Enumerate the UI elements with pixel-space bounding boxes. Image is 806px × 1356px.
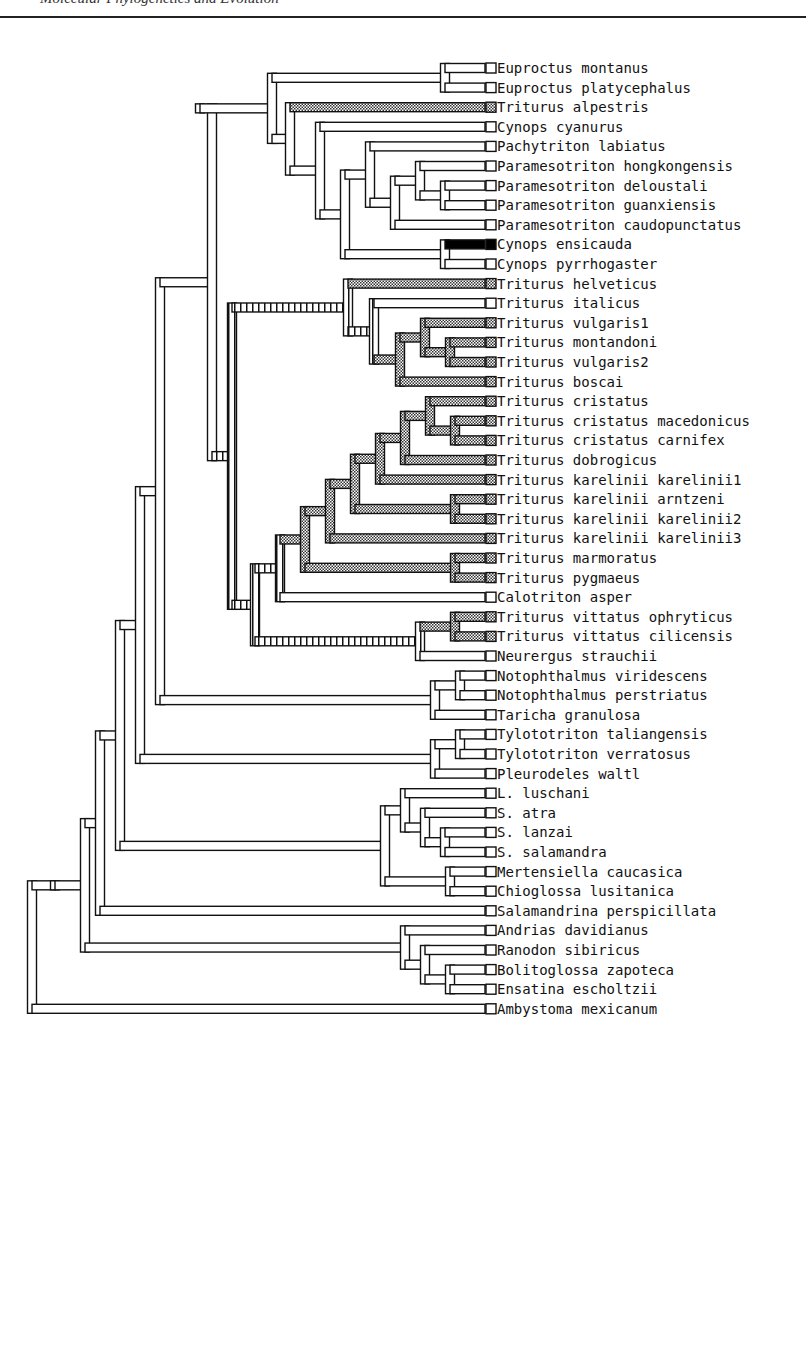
taxon-label: Andrias davidianus <box>497 922 649 938</box>
character-state-box <box>486 651 496 661</box>
phylogenetic-tree: Euproctus montanusEuproctus platycephalu… <box>0 0 806 1356</box>
branch <box>445 83 485 92</box>
branch <box>272 73 445 82</box>
character-state-box <box>486 63 496 73</box>
character-state-box <box>486 925 496 935</box>
tree-leaves: Euproctus montanusEuproctus platycephalu… <box>486 60 750 1017</box>
character-state-box <box>486 514 496 524</box>
node-connector <box>276 535 285 602</box>
character-state-box <box>486 827 496 837</box>
taxon-label: Triturus helveticus <box>497 276 657 292</box>
branch <box>405 789 485 798</box>
node-connector <box>370 299 379 364</box>
character-state-box <box>486 1004 496 1014</box>
branch <box>232 303 348 312</box>
taxon-label: Paramesotriton caudopunctatus <box>497 217 741 233</box>
taxon-label: Triturus italicus <box>497 295 640 311</box>
character-state-box <box>486 279 496 289</box>
branch <box>455 554 485 563</box>
branch <box>160 278 212 287</box>
taxon-label: Notophthalmus perstriatus <box>497 687 708 703</box>
taxon-label: Triturus karelinii arntzeni <box>497 491 725 507</box>
character-state-box <box>486 318 496 328</box>
branch <box>320 122 485 131</box>
taxon-label: Triturus montandoni <box>497 334 657 350</box>
character-state-box <box>486 102 496 112</box>
taxon-label: Euproctus montanus <box>497 60 649 76</box>
taxon-label: Triturus vulgaris2 <box>497 354 649 370</box>
character-state-box <box>486 416 496 426</box>
branch <box>290 103 485 112</box>
character-state-box <box>486 181 496 191</box>
character-state-box <box>486 298 496 308</box>
node-connector <box>96 731 105 915</box>
character-state-box <box>486 259 496 269</box>
taxon-label: Triturus vittatus cilicensis <box>497 628 733 644</box>
taxon-label: Tylototriton taliangensis <box>497 726 708 742</box>
character-state-box <box>486 690 496 700</box>
branch <box>420 622 455 631</box>
node-connector <box>228 303 237 609</box>
branch <box>400 377 485 386</box>
taxon-label: Ensatina escholtzii <box>497 981 657 997</box>
branch <box>140 754 435 763</box>
branch <box>430 397 485 406</box>
character-state-box <box>486 377 496 387</box>
node-connector <box>116 621 125 851</box>
branch <box>385 877 450 886</box>
branch <box>348 279 485 288</box>
taxon-label: Triturus cristatus <box>497 393 649 409</box>
taxon-label: Chioglossa lusitanica <box>497 883 674 899</box>
taxon-label: Triturus marmoratus <box>497 550 657 566</box>
branch <box>455 612 485 621</box>
node-connector <box>381 806 390 886</box>
branch <box>445 64 485 73</box>
taxon-label: Triturus pygmaeus <box>497 570 640 586</box>
taxon-label: Pachytriton labiatus <box>497 138 666 154</box>
taxon-label: Neurergus strauchii <box>497 648 657 664</box>
character-state-box <box>486 984 496 994</box>
character-state-box <box>486 83 496 93</box>
branch <box>405 926 485 935</box>
character-state-box <box>486 886 496 896</box>
character-state-box <box>486 435 496 445</box>
taxon-label: Taricha granulosa <box>497 707 640 723</box>
character-state-box <box>486 592 496 602</box>
taxon-label: Cynops pyrrhogaster <box>497 256 657 272</box>
branch <box>455 573 485 582</box>
taxon-label: L. luschani <box>497 785 590 801</box>
branch <box>85 943 405 952</box>
character-state-box <box>486 867 496 877</box>
branch <box>395 220 485 229</box>
character-state-box <box>486 200 496 210</box>
branch <box>405 456 485 465</box>
branch <box>455 495 485 504</box>
taxon-label: Ambystoma mexicanum <box>497 1001 657 1017</box>
character-state-box <box>486 220 496 230</box>
taxon-label: Paramesotriton hongkongensis <box>497 158 733 174</box>
node-connector <box>341 170 350 259</box>
taxon-label: Triturus cristatus carnifex <box>497 432 725 448</box>
branch <box>330 534 485 543</box>
character-state-box <box>486 573 496 583</box>
branch <box>455 514 485 523</box>
branch <box>455 436 485 445</box>
taxon-label: Triturus vulgaris1 <box>497 315 649 331</box>
character-state-box <box>486 847 496 857</box>
taxon-label: Notophthalmus viridescens <box>497 668 708 684</box>
node-connector <box>366 142 375 207</box>
node-connector <box>268 73 277 143</box>
branch <box>445 260 485 269</box>
character-state-box <box>486 710 496 720</box>
taxon-label: Triturus cristatus macedonicus <box>497 413 750 429</box>
tree-branches <box>28 64 486 1014</box>
branch <box>435 710 485 719</box>
taxon-label: Cynops ensicauda <box>497 236 632 252</box>
character-state-box <box>486 337 496 347</box>
node-connector <box>301 507 310 573</box>
branch <box>120 841 385 850</box>
character-state-box <box>486 749 496 759</box>
node-connector <box>28 881 37 1013</box>
character-state-box <box>486 396 496 406</box>
character-state-box <box>486 455 496 465</box>
